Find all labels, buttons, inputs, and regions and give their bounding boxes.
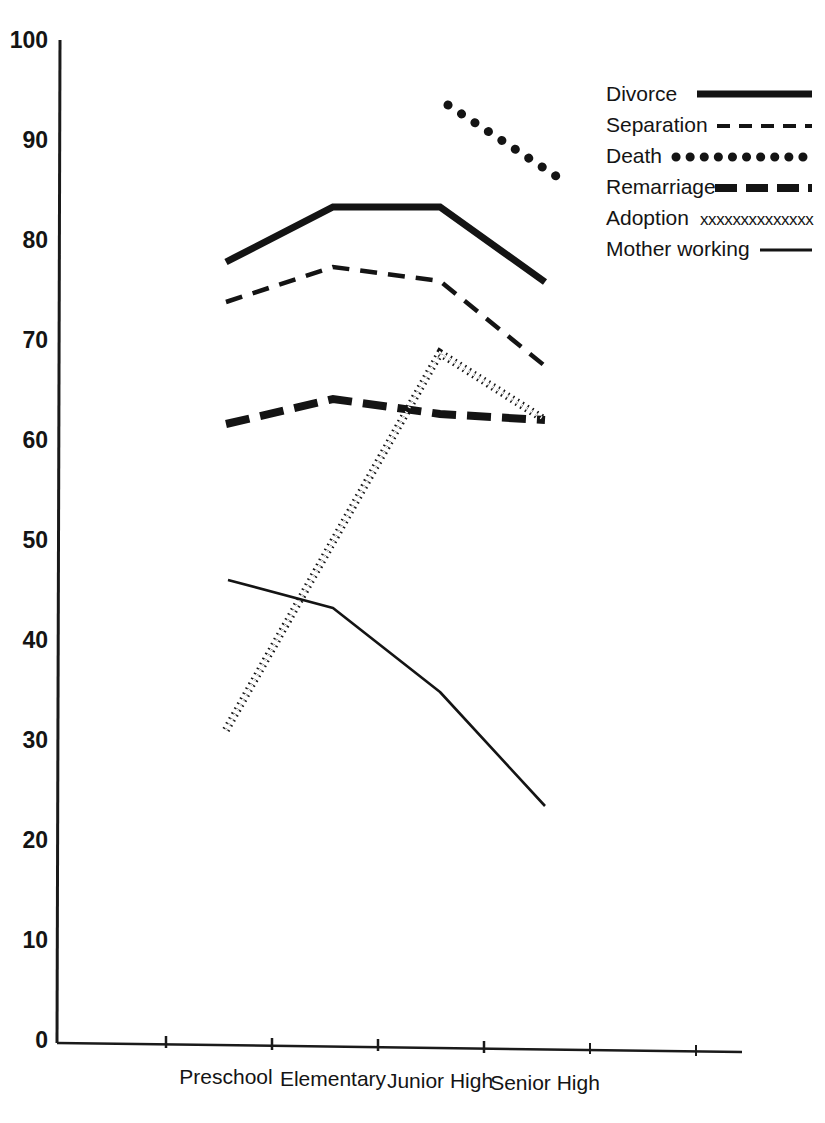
x-label-junior-high: Junior High — [387, 1069, 493, 1092]
line-chart-canvas: 100 90 80 70 60 50 40 30 20 10 0 Prescho… — [0, 0, 825, 1123]
x-axis-line — [57, 1043, 742, 1052]
series-mother-working-line — [228, 580, 545, 806]
series-remarriage-line — [226, 399, 545, 424]
legend-label-divorce: Divorce — [606, 82, 677, 105]
y-tick-label-20: 20 — [22, 827, 48, 853]
y-tick-label-60: 60 — [22, 427, 48, 453]
series-divorce-line — [226, 207, 545, 282]
x-label-preschool: Preschool — [179, 1065, 272, 1088]
y-tick-label-40: 40 — [22, 627, 48, 653]
legend-item-mother-working: Mother working — [606, 237, 812, 260]
series-mother-working — [228, 580, 545, 806]
legend-label-adoption: Adoption — [606, 206, 689, 229]
y-tick-label-90: 90 — [22, 127, 48, 153]
legend-label-separation: Separation — [606, 113, 708, 136]
x-label-senior-high: Senior High — [490, 1071, 600, 1094]
series-death — [448, 105, 562, 180]
series-death-line — [448, 105, 562, 180]
legend-item-separation: Separation — [606, 113, 812, 136]
legend-item-death: Death — [606, 144, 812, 167]
chart-figure: 100 90 80 70 60 50 40 30 20 10 0 Prescho… — [0, 0, 825, 1123]
series-remarriage — [226, 399, 545, 424]
y-tick-label-0: 0 — [35, 1027, 48, 1053]
legend-swatch-adoption-x-marks: xxxxxxxxxxxxxx — [700, 210, 814, 229]
series-divorce — [226, 207, 545, 282]
legend-item-adoption: Adoption xxxxxxxxxxxxxx — [606, 206, 814, 229]
y-tick-label-10: 10 — [22, 927, 48, 953]
y-tick-label-80: 80 — [22, 227, 48, 253]
legend-label-remarriage: Remarriage — [606, 175, 716, 198]
x-axis-category-labels: Preschool Elementary Junior High Senior … — [179, 1065, 600, 1094]
y-tick-label-100: 100 — [10, 27, 48, 53]
series-separation-line — [226, 267, 545, 366]
y-axis-tick-labels: 100 90 80 70 60 50 40 30 20 10 0 — [10, 27, 48, 1053]
legend-label-death: Death — [606, 144, 662, 167]
x-label-elementary: Elementary — [280, 1067, 387, 1090]
y-tick-label-50: 50 — [22, 527, 48, 553]
series-separation — [226, 267, 545, 366]
legend-item-remarriage: Remarriage — [606, 175, 812, 198]
y-tick-label-70: 70 — [22, 327, 48, 353]
chart-legend: Divorce Separation Death Remarriage Adop… — [606, 82, 814, 260]
y-tick-label-30: 30 — [22, 727, 48, 753]
legend-item-divorce: Divorce — [606, 82, 812, 105]
y-axis-line — [57, 40, 60, 1043]
legend-label-mother-working: Mother working — [606, 237, 750, 260]
